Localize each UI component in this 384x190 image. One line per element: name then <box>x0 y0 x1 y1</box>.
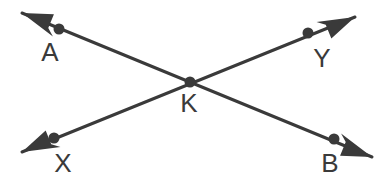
line-ab <box>22 13 372 157</box>
point-dot-y <box>303 28 314 39</box>
point-label-k: K <box>180 90 197 116</box>
point-label-b: B <box>321 150 338 176</box>
point-dot-a <box>54 24 65 35</box>
arrowhead-y <box>317 17 355 38</box>
point-label-a: A <box>41 39 58 65</box>
arrowhead-b <box>340 134 372 157</box>
diagram-canvas: A Y K X B <box>0 0 384 190</box>
line-ab-segment <box>22 13 372 157</box>
point-label-x: X <box>54 150 71 176</box>
point-dot-x <box>49 133 60 144</box>
arrowhead-a <box>22 13 54 36</box>
point-label-y: Y <box>313 45 330 71</box>
point-dot-b <box>329 134 340 145</box>
point-dot-k <box>185 77 196 88</box>
